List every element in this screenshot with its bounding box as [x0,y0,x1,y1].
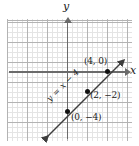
y-axis-arrow-icon [64,17,72,23]
y-axis-label: y [63,0,69,13]
x-axis-label: x [130,64,136,77]
data-point-label-0-neg4: (0, −4) [71,112,101,122]
data-point-label-4-0: (4, 0) [84,56,107,66]
coordinate-plane-figure: y x (4, 0) (2, −2) (0, −4) y = x − 4 [0,0,139,146]
data-point-2-neg2 [85,89,90,94]
data-point-label-2-neg2: (2, −2) [90,90,120,100]
data-point-4-0 [105,69,110,74]
data-point-0-neg4 [65,109,70,114]
